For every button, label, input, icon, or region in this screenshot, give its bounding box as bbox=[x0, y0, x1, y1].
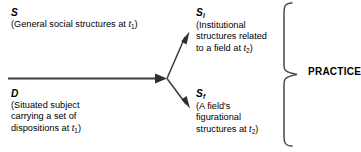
node-si-line-3: to a field at t2) bbox=[196, 43, 267, 54]
node-d-line-1: (Situated subject bbox=[11, 100, 81, 111]
node-s-description: (General social structures at t1) bbox=[11, 19, 138, 30]
node-d-line-3: dispositions at t1) bbox=[11, 123, 81, 134]
arrow-d-to-junction bbox=[8, 74, 167, 84]
node-d-symbol: D bbox=[11, 88, 81, 100]
node-sf-line-1: (A field's bbox=[196, 101, 258, 112]
node-sf-symbol: Sf bbox=[196, 88, 258, 101]
node-si-line-1: (Institutional bbox=[196, 20, 267, 31]
practice-label: PRACTICE bbox=[308, 66, 361, 77]
practice-diagram: S (General social structures at t1) D (S… bbox=[0, 0, 361, 152]
node-si-symbol: SI bbox=[196, 7, 267, 20]
node-sf: Sf (A field's figurational structures at… bbox=[196, 88, 258, 135]
node-s: S (General social structures at t1) bbox=[11, 7, 138, 30]
node-si: SI (Institutional structures related to … bbox=[196, 7, 267, 54]
arrow-junction-to-sf bbox=[167, 79, 190, 109]
practice-brace bbox=[284, 3, 297, 146]
node-d: D (Situated subject carrying a set of di… bbox=[11, 88, 81, 134]
node-si-line-2: structures related bbox=[196, 31, 267, 42]
node-s-symbol: S bbox=[11, 7, 138, 19]
node-sf-line-3: structures at t2) bbox=[196, 124, 258, 135]
node-sf-line-2: figurational bbox=[196, 112, 258, 123]
node-d-line-2: carrying a set of bbox=[11, 111, 81, 122]
arrow-junction-to-si bbox=[167, 32, 190, 79]
